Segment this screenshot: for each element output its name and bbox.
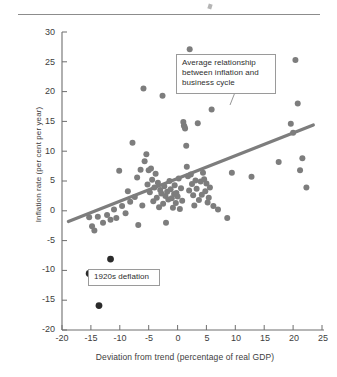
data-point bbox=[91, 227, 97, 233]
data-point bbox=[299, 155, 305, 161]
data-point bbox=[127, 199, 133, 205]
x-tick-label: 0 bbox=[165, 333, 191, 343]
data-point bbox=[191, 202, 197, 208]
data-point bbox=[190, 192, 196, 198]
y-tick-label: 20 bbox=[33, 86, 55, 96]
x-tick-label: 25 bbox=[310, 333, 336, 343]
x-tick-label: -5 bbox=[136, 333, 162, 343]
x-tick-label: -20 bbox=[49, 333, 75, 343]
x-axis-ticks bbox=[62, 325, 322, 330]
y-tick-label: 15 bbox=[33, 116, 55, 126]
data-point bbox=[276, 159, 282, 165]
x-tick-label: 20 bbox=[281, 333, 307, 343]
y-tick-label: 0 bbox=[33, 205, 55, 215]
trend-annotation-box: Average relationship between inflation a… bbox=[176, 54, 276, 94]
y-axis-ticks bbox=[62, 32, 67, 330]
data-point bbox=[195, 120, 201, 126]
data-point bbox=[154, 195, 160, 201]
data-point bbox=[303, 185, 309, 191]
y-tick-label: -10 bbox=[33, 264, 55, 274]
data-point bbox=[163, 220, 169, 226]
data-point bbox=[184, 164, 190, 170]
deflation-annotation-box: 1920s deflation bbox=[88, 269, 160, 286]
data-point bbox=[209, 106, 215, 112]
data-point bbox=[113, 215, 119, 221]
data-point bbox=[172, 182, 178, 188]
data-point bbox=[153, 171, 159, 177]
data-point bbox=[187, 46, 193, 52]
data-point bbox=[138, 167, 144, 173]
data-point bbox=[183, 143, 189, 149]
x-tick-label: -15 bbox=[78, 333, 104, 343]
data-point bbox=[149, 177, 155, 183]
y-tick-label: 10 bbox=[33, 146, 55, 156]
data-point bbox=[142, 158, 148, 164]
data-point bbox=[196, 197, 202, 203]
x-tick-label: 15 bbox=[252, 333, 278, 343]
data-point bbox=[111, 207, 117, 213]
data-point bbox=[186, 188, 192, 194]
x-axis-title: Deviation from trend (percentage of real… bbox=[40, 352, 330, 362]
data-point bbox=[178, 185, 184, 191]
y-tick-label: -5 bbox=[33, 235, 55, 245]
data-point bbox=[116, 168, 122, 174]
data-point bbox=[215, 207, 221, 213]
data-point bbox=[134, 174, 140, 180]
x-tick-label: 5 bbox=[194, 333, 220, 343]
data-point bbox=[249, 174, 255, 180]
data-point bbox=[108, 217, 114, 223]
data-point bbox=[145, 182, 151, 188]
data-point bbox=[148, 165, 154, 171]
data-point bbox=[119, 203, 125, 209]
data-point bbox=[143, 151, 149, 157]
data-point bbox=[295, 101, 301, 107]
data-point bbox=[96, 302, 103, 309]
data-point bbox=[173, 200, 179, 206]
x-tick-label: -10 bbox=[107, 333, 133, 343]
data-point bbox=[297, 167, 303, 173]
data-point bbox=[107, 256, 114, 263]
data-point bbox=[100, 220, 106, 226]
data-point bbox=[95, 214, 101, 220]
y-tick-label: -15 bbox=[33, 294, 55, 304]
trend-line bbox=[68, 125, 313, 222]
data-point bbox=[182, 126, 188, 132]
x-tick-label: 10 bbox=[223, 333, 249, 343]
data-point bbox=[129, 140, 135, 146]
data-point bbox=[206, 195, 212, 201]
data-point bbox=[207, 185, 213, 191]
data-point bbox=[123, 210, 129, 216]
data-point bbox=[135, 222, 141, 228]
y-tick-label: 25 bbox=[33, 57, 55, 67]
data-point bbox=[224, 215, 230, 221]
scatter-chart-figure: Inflation rate (per cent per year) Devia… bbox=[0, 0, 337, 377]
data-point bbox=[160, 93, 166, 99]
data-point bbox=[192, 177, 198, 183]
data-point bbox=[139, 202, 145, 208]
y-tick-label: 5 bbox=[33, 175, 55, 185]
data-point bbox=[288, 121, 294, 127]
data-point bbox=[194, 186, 200, 192]
data-point bbox=[175, 194, 181, 200]
data-point bbox=[229, 170, 235, 176]
y-tick-label: 30 bbox=[33, 27, 55, 37]
data-point bbox=[125, 188, 131, 194]
data-point bbox=[140, 86, 146, 92]
data-point bbox=[292, 57, 298, 63]
data-point bbox=[160, 201, 166, 207]
data-point bbox=[177, 206, 183, 212]
data-point bbox=[179, 198, 185, 204]
